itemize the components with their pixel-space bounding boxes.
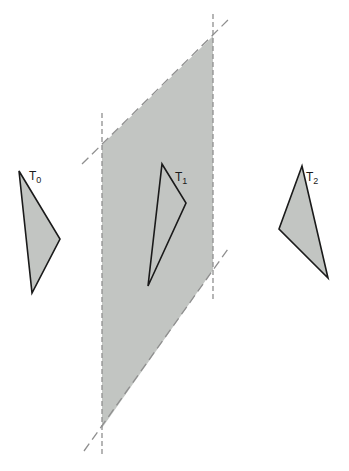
triangle-T2-label: T2 — [306, 170, 318, 186]
triangle-T0 — [19, 171, 60, 293]
triangle-T0-label-subscript: 0 — [36, 175, 41, 185]
figure: T0T1T2 — [0, 0, 349, 471]
triangle-T1-label-subscript: 1 — [182, 176, 187, 186]
triangle-T2 — [279, 166, 328, 278]
triangle-T2-label-subscript: 2 — [313, 176, 318, 186]
diagram-svg: T0T1T2 — [0, 0, 349, 471]
triangle-T0-label: T0 — [29, 169, 41, 185]
